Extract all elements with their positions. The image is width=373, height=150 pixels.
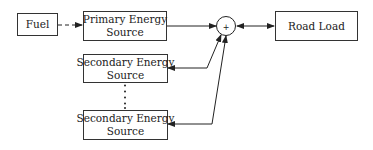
plus-icon: +: [223, 23, 230, 32]
ellipsis-dots: [124, 85, 126, 110]
junction-secondary-1-arrow: [168, 35, 221, 68]
junction-secondary-n-arrow: [168, 36, 226, 124]
secondary-energy-source-node-1: Secondary Energy Source: [77, 55, 175, 83]
secondary-1-label-line1: Secondary Energy: [77, 56, 175, 68]
road-load-node: Road Load: [276, 12, 358, 41]
dot: [124, 103, 126, 105]
road-load-label: Road Load: [288, 20, 345, 32]
secondary-1-label-line2: Source: [107, 69, 144, 81]
fuel-label: Fuel: [26, 18, 50, 30]
secondary-n-label-line1: Secondary Energy: [77, 112, 175, 124]
dot: [124, 97, 126, 99]
dot: [124, 91, 126, 93]
summing-junction: +: [217, 17, 236, 36]
primary-label-line1: Primary Energy: [83, 13, 167, 25]
primary-energy-source-node: Primary Energy Source: [83, 12, 167, 41]
powertrain-diagram: Fuel Primary Energy Source + Road Load S…: [0, 0, 373, 150]
secondary-n-label-line2: Source: [107, 125, 144, 137]
primary-label-line2: Source: [106, 26, 143, 38]
dot: [124, 107, 126, 109]
secondary-energy-source-node-n: Secondary Energy Source: [77, 111, 175, 140]
dot: [124, 85, 126, 87]
fuel-node: Fuel: [18, 14, 58, 36]
